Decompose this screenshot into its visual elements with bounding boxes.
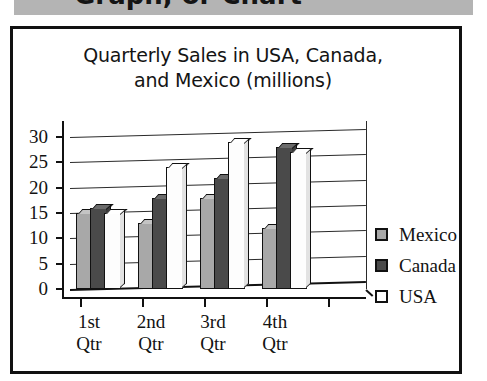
legend-swatch-canada	[375, 259, 388, 272]
legend-swatch-usa	[375, 290, 388, 303]
clipped-heading-band: Graph, or Chart	[14, 0, 473, 15]
x-axis-label-line-2: Qtr	[244, 333, 306, 355]
y-axis-label-30: 30	[8, 127, 48, 146]
x-axis-label-4th-qtr: 4thQtr	[244, 311, 306, 355]
y-tick-mark-15	[56, 212, 63, 214]
x-axis-label-3rd-qtr: 3rdQtr	[182, 311, 244, 355]
x-axis-label-line-2: Qtr	[120, 333, 182, 355]
gridline-25	[70, 154, 366, 163]
y-tick-mark-30	[56, 136, 63, 138]
bar-group-4th-qtr	[262, 288, 324, 289]
legend-swatch-mexico	[375, 228, 388, 241]
y-tick-mark-5	[56, 263, 63, 265]
legend-label-mexico: Mexico	[399, 225, 457, 244]
y-tick-mark-20	[56, 187, 63, 189]
y-axis-label-10: 10	[8, 228, 48, 247]
legend-label-usa: USA	[399, 287, 437, 306]
bar-usa-4th-qtr	[290, 152, 307, 289]
y-axis-label-15: 15	[8, 203, 48, 222]
bar-usa-2nd-qtr	[166, 167, 183, 289]
y-axis-line	[62, 121, 64, 298]
x-tick-mark-1	[80, 299, 82, 307]
plot-floor-front-edge	[62, 297, 366, 299]
x-tick-mark-4	[266, 299, 268, 307]
y-tick-mark-10	[56, 237, 63, 239]
chart-figure-frame: Quarterly Sales in USA, Canada, and Mexi…	[10, 26, 462, 374]
legend-item-canada[interactable]: Canada	[375, 250, 457, 281]
plot-back-wall-right-edge	[366, 121, 367, 289]
bar-side-face	[120, 209, 125, 288]
bar-side-face	[182, 164, 187, 288]
plot-area: 051015202530 1stQtr2ndQtr3rdQtr4thQtr	[70, 129, 375, 299]
x-axis-label-2nd-qtr: 2ndQtr	[120, 311, 182, 355]
x-tick-mark-end	[328, 299, 330, 307]
chart-legend: MexicoCanadaUSA	[375, 219, 457, 312]
plot-floor-left-edge	[62, 289, 64, 298]
clipped-heading-text: Graph, or Chart	[74, 0, 302, 10]
y-tick-mark-0	[56, 288, 63, 290]
chart-title-line-2: and Mexico (millions)	[33, 68, 433, 93]
y-axis-label-0: 0	[8, 279, 48, 298]
x-tick-mark-3	[204, 299, 206, 307]
x-axis-label-line-1: 1st	[58, 311, 120, 333]
legend-label-canada: Canada	[399, 256, 456, 275]
legend-item-usa[interactable]: USA	[375, 281, 457, 312]
bar-side-face	[306, 149, 311, 288]
y-axis-label-25: 25	[8, 152, 48, 171]
legend-item-mexico[interactable]: Mexico	[375, 219, 457, 250]
x-tick-mark-2	[142, 299, 144, 307]
x-axis-label-line-1: 4th	[244, 311, 306, 333]
bar-group-3rd-qtr	[200, 288, 262, 289]
x-axis-label-line-1: 2nd	[120, 311, 182, 333]
chart-title: Quarterly Sales in USA, Canada, and Mexi…	[33, 43, 433, 93]
y-axis-label-5: 5	[8, 254, 48, 273]
x-axis-label-1st-qtr: 1stQtr	[58, 311, 120, 355]
bar-usa-3rd-qtr	[228, 142, 245, 289]
bar-group-1st-qtr	[76, 288, 138, 289]
y-tick-mark-25	[56, 161, 63, 163]
x-axis-label-line-1: 3rd	[182, 311, 244, 333]
bar-side-face	[244, 139, 249, 288]
x-axis-label-line-2: Qtr	[58, 333, 120, 355]
plot-floor-right-edge	[365, 289, 373, 297]
bar-group-2nd-qtr	[138, 288, 200, 289]
y-axis-label-20: 20	[8, 178, 48, 197]
gridline-30	[70, 129, 366, 138]
bar-usa-1st-qtr	[104, 213, 121, 289]
x-axis-label-line-2: Qtr	[182, 333, 244, 355]
chart-title-line-1: Quarterly Sales in USA, Canada,	[33, 43, 433, 68]
